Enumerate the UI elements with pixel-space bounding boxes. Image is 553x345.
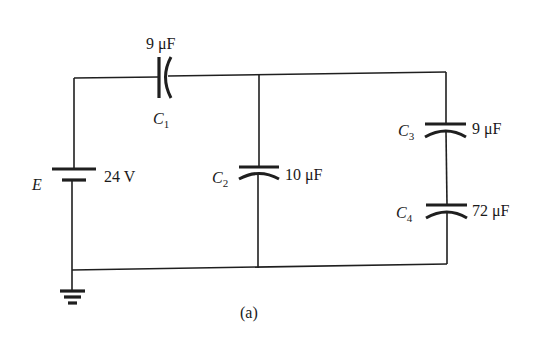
ground-icon <box>60 291 85 303</box>
source-symbol: E <box>31 176 42 193</box>
c2-label: C2 <box>212 169 228 189</box>
figure-caption: (a) <box>240 304 258 322</box>
c1-value: 9 μF <box>146 35 176 53</box>
c2-value: 10 μF <box>285 166 323 184</box>
c3-value: 9 μF <box>472 120 502 138</box>
battery-e <box>52 169 96 180</box>
source-value: 24 V <box>104 168 136 185</box>
c1-label: C1 <box>153 110 169 130</box>
circuit-diagram: 9 μF C1 E 24 V C2 10 μF C3 9 μF C4 72 μF… <box>0 0 553 345</box>
capacitor-c2 <box>239 167 279 179</box>
c4-value: 72 μF <box>472 202 510 220</box>
c4-label: C4 <box>396 204 413 224</box>
c3-label: C3 <box>398 122 415 142</box>
capacitor-c1 <box>159 57 171 98</box>
